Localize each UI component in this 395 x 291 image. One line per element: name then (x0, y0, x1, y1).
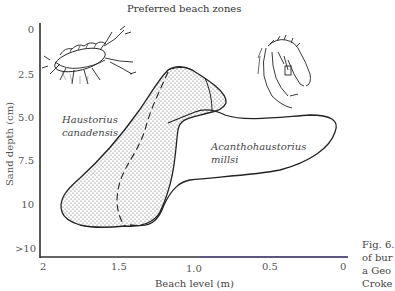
species-genus: Acanthohaustorius (211, 140, 306, 153)
x-tick: 1.0 (186, 263, 202, 274)
caption-line: Croke (362, 277, 394, 290)
y-tick: 2.5 (4, 69, 34, 80)
y-axis-label: Sand depth (cm) (4, 102, 15, 186)
y-tick: >10 (6, 243, 36, 254)
species-epithet: canadensis (62, 126, 118, 139)
caption-line: a Geo (362, 264, 394, 277)
x-tick: 0.5 (262, 261, 278, 272)
caption-line: Fig. 6. (362, 238, 394, 251)
x-tick: 0 (340, 261, 346, 272)
x-axis-label: Beach level (m) (155, 278, 234, 289)
y-tick: 0 (4, 24, 34, 35)
species-label-haustorius: Haustorius canadensis (62, 113, 118, 139)
species-epithet: millsi (211, 153, 306, 166)
y-tick: 10 (4, 199, 34, 210)
haustorius-zone (61, 67, 226, 228)
x-tick: 2 (40, 261, 46, 272)
caption-line: of bur (362, 251, 394, 264)
figure-caption: Fig. 6. of bur a Geo Croke (362, 238, 394, 290)
haustorius-illustration-icon (42, 26, 136, 84)
species-label-acanthohaustorius: Acanthohaustorius millsi (211, 140, 306, 166)
species-genus: Haustorius (62, 113, 118, 126)
x-tick: 1.5 (111, 261, 127, 272)
acanthohaustorius-illustration-icon (258, 35, 311, 108)
diagram-canvas (0, 0, 395, 291)
